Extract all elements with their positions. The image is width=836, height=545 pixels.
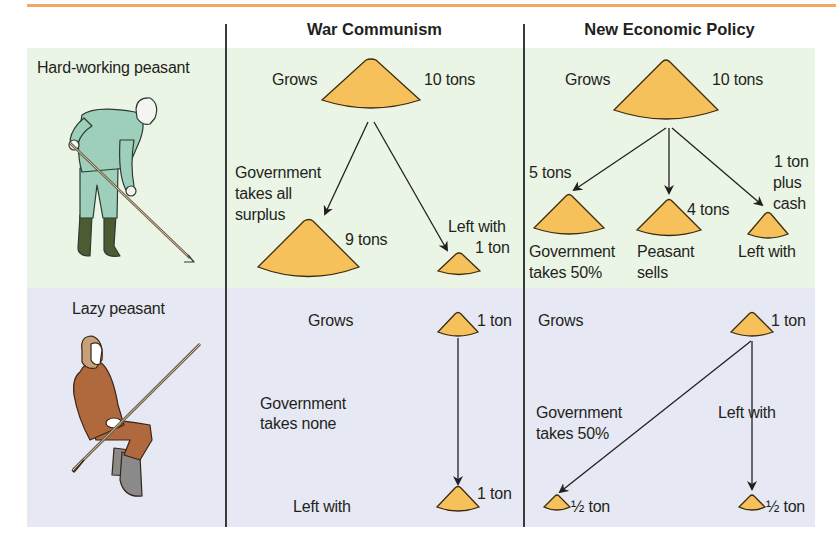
wc-hard-grows-label: Grows [272,70,317,89]
nep-hard-arrow-left [672,128,762,205]
nep-hard-left-cone [748,213,788,239]
diagram-graphics [0,0,836,545]
nep-hard-grows-amount: 10 tons [712,70,763,89]
wc-hard-government-cone [258,220,359,277]
wc-hard-left-label: Left with [448,217,506,236]
nep-hard-arrow-government [574,128,666,190]
wc-lazy-left-cone [437,487,479,512]
nep-hard-government-line2: takes 50% [529,263,602,282]
wc-hard-government-line1: Government [235,163,321,182]
nep-lazy-government-amount: ½ ton [571,497,610,516]
nep-hard-grows-label: Grows [565,70,610,89]
wc-hard-government-amount: 9 tons [345,230,387,249]
wc-lazy-grows-amount: 1 ton [477,311,512,330]
wc-hard-grows-amount: 10 tons [424,70,475,89]
nep-hard-sells-line1: Peasant [637,242,694,261]
wc-hard-grows-cone [322,59,420,108]
nep-lazy-left-label: Left with [718,403,776,422]
wc-lazy-government-line1: Government [260,394,346,413]
nep-hard-government-line1: Government [529,242,615,261]
nep-hard-grows-cone [614,60,718,119]
wc-lazy-left-amount: 1 ton [477,484,512,503]
wc-lazy-grows-cone [438,313,478,337]
nep-hard-left-amount-line3: cash [773,194,806,213]
nep-lazy-government-line1: Government [536,403,622,422]
wc-hard-left-amount: 1 ton [475,238,510,257]
wc-lazy-government-line2: takes none [260,414,336,433]
nep-lazy-government-cone [544,495,570,510]
nep-hard-government-amount: 5 tons [529,163,571,182]
hardworking-peasant-illustration [69,98,194,262]
nep-lazy-left-amount: ½ ton [766,497,805,516]
nep-hard-left-label: Left with [738,242,796,261]
nep-hard-government-cone [534,195,604,235]
wc-lazy-left-label: Left with [293,497,351,516]
wc-lazy-grows-label: Grows [308,311,353,330]
nep-lazy-grows-cone [731,313,773,337]
lazy-peasant-illustration [72,336,200,496]
nep-lazy-government-line2: takes 50% [536,424,609,443]
wc-hard-government-line3: surplus [235,205,285,224]
wc-hard-arrow-government [325,122,368,214]
nep-hard-left-amount-line1: 1 ton [774,152,809,171]
nep-hard-left-amount-line2: plus [773,173,802,192]
nep-hard-sells-line2: sells [637,263,668,282]
nep-hard-sells-amount: 4 tons [687,200,729,219]
wc-hard-government-line2: takes all [235,184,292,203]
wc-hard-left-cone [438,253,480,275]
nep-lazy-grows-amount: 1 ton [771,311,806,330]
nep-lazy-left-cone [739,495,765,510]
nep-lazy-grows-label: Grows [538,311,583,330]
